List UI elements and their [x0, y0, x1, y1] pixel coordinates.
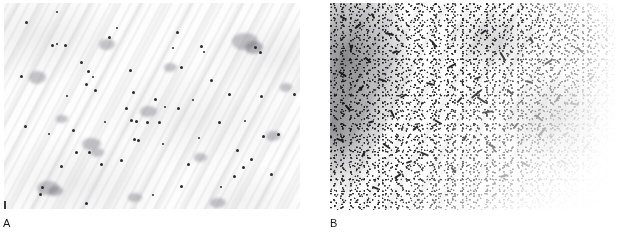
bacillus	[364, 57, 371, 64]
bacillus	[385, 32, 394, 36]
figure-container: A B	[0, 0, 628, 239]
bacillus	[577, 46, 584, 53]
particle-dot	[48, 133, 50, 135]
particle-dot	[154, 98, 157, 101]
particle-dot	[20, 75, 23, 78]
bacillus	[593, 116, 597, 123]
particle-dot	[259, 51, 262, 54]
particle-dot	[146, 121, 149, 124]
particle-dot	[233, 175, 236, 178]
particle-dot	[172, 47, 174, 49]
particle-dot	[293, 93, 296, 96]
particle-dot	[137, 139, 140, 142]
particle-dot	[129, 69, 132, 72]
particle-dot	[203, 51, 205, 53]
panel-b-bacilli-layer	[330, 3, 615, 210]
panel-a-image	[4, 3, 300, 209]
particle-dot	[220, 186, 222, 188]
bacillus	[400, 93, 407, 98]
particle-dot	[177, 107, 180, 110]
bacillus	[354, 23, 362, 30]
particle-dot	[39, 193, 42, 196]
particle-dot	[135, 120, 138, 123]
particle-dot	[108, 36, 111, 39]
bacillus	[371, 13, 376, 19]
particle-dot	[80, 61, 83, 64]
particle-dot	[242, 166, 245, 169]
bacillus	[544, 59, 553, 65]
particle-dot	[200, 45, 203, 48]
panel-b-image	[330, 3, 615, 210]
particle-dot	[198, 137, 200, 139]
particle-dot	[66, 95, 68, 97]
bacillus	[463, 135, 468, 141]
particle-dot	[176, 31, 179, 34]
particle-dot	[192, 99, 194, 101]
particle-dot	[164, 106, 166, 108]
bacillus	[340, 16, 347, 21]
bacillus	[488, 143, 496, 148]
particle-dot	[162, 143, 164, 145]
bacillus	[345, 104, 352, 111]
particle-dot	[244, 120, 246, 122]
bacillus	[526, 80, 533, 84]
bacillus	[338, 71, 347, 78]
particle-dot	[88, 151, 91, 154]
bacillus	[474, 76, 481, 80]
particle-dot	[180, 185, 183, 188]
bacillus	[500, 174, 508, 178]
particle-dot	[133, 138, 136, 141]
bacillus	[434, 119, 442, 125]
bacillus	[359, 85, 365, 92]
particle-dot	[116, 27, 118, 29]
particle-dot	[64, 44, 67, 47]
particle-dot	[180, 66, 183, 69]
particle-dot	[85, 202, 88, 205]
particle-dot	[236, 149, 239, 152]
bacillus	[426, 82, 435, 86]
bacillus	[513, 123, 519, 130]
bacillus	[529, 36, 534, 43]
particle-dot	[87, 70, 90, 73]
bacillus	[390, 109, 395, 118]
bacillus	[588, 75, 595, 81]
particle-dot	[104, 121, 106, 123]
particle-dot	[60, 165, 63, 168]
bacillus	[431, 40, 437, 48]
panel-caption-b: B	[330, 217, 338, 229]
particle-dot	[228, 93, 231, 96]
bacillus	[480, 29, 487, 35]
micrograph-panel-b[interactable]	[330, 3, 615, 210]
particle-dot	[277, 133, 280, 136]
bacillus	[456, 97, 462, 103]
particle-dot	[130, 119, 133, 122]
particle-dot	[92, 76, 94, 78]
bacillus	[394, 173, 402, 179]
bacillus	[506, 89, 513, 96]
particle-dot	[218, 121, 221, 124]
particle-dot	[158, 121, 161, 124]
bacillus	[448, 63, 455, 68]
bacillus	[361, 150, 366, 157]
particle-dot	[100, 163, 103, 166]
particle-dot	[270, 173, 273, 176]
particle-dot	[152, 194, 154, 196]
particle-dot	[51, 44, 54, 47]
bacillus	[372, 186, 379, 190]
panel-caption-a: A	[3, 217, 11, 229]
bacillus	[336, 138, 344, 143]
panel-a-particle-layer	[4, 3, 300, 209]
particle-dot	[85, 83, 88, 86]
micrograph-panel-a[interactable]	[4, 3, 300, 209]
particle-dot	[41, 186, 44, 189]
particle-dot	[25, 21, 28, 24]
bacillus	[476, 96, 486, 104]
bacillus	[560, 159, 567, 164]
panel-a-edge-mark	[4, 201, 6, 209]
bacillus	[412, 125, 418, 131]
particle-dot	[260, 95, 263, 98]
bacillus	[583, 142, 590, 150]
particle-dot	[24, 125, 27, 128]
particle-dot	[262, 135, 265, 138]
particle-dot	[120, 159, 123, 162]
